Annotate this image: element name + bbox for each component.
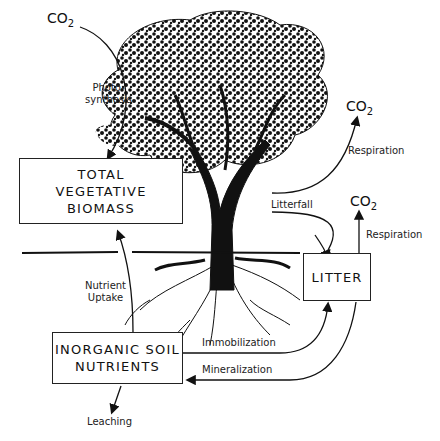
box-line: BIOMASS xyxy=(67,200,135,217)
photosynthesis-label: Photo- synthesis xyxy=(85,82,132,106)
inorganic-soil-nutrients-box: INORGANIC SOIL NUTRIENTS xyxy=(52,332,183,384)
mineralization-label: Mineralization xyxy=(202,364,272,376)
co2-label-litter-respiration: CO2 xyxy=(350,193,377,212)
co2-label-tree-respiration: CO2 xyxy=(346,98,373,117)
respiration-label-tree: Respiration xyxy=(348,145,404,157)
co2-label-atmosphere: CO2 xyxy=(47,10,74,29)
box-line: LITTER xyxy=(311,269,362,286)
label-line: Photo- xyxy=(85,82,132,94)
nutrient-cycle-diagram: CO2 CO2 CO2 TOTAL VEGETATIVE BIOMASS LIT… xyxy=(0,0,440,441)
leaching-arrow xyxy=(112,386,121,412)
immobilization-label: Immobilization xyxy=(202,337,276,349)
box-line: INORGANIC SOIL xyxy=(55,341,180,358)
litterfall-label: Litterfall xyxy=(271,199,313,211)
respiration-label-litter: Respiration xyxy=(366,229,422,241)
box-line: NUTRIENTS xyxy=(75,358,160,375)
box-line: VEGETATIVE xyxy=(55,183,146,200)
label-line: synthesis xyxy=(85,94,132,106)
leaching-label: Leaching xyxy=(87,416,132,428)
nutrient-uptake-label: Nutrient Uptake xyxy=(85,280,126,304)
total-vegetative-biomass-box: TOTAL VEGETATIVE BIOMASS xyxy=(19,158,183,224)
box-line: TOTAL xyxy=(77,166,124,183)
ground-line xyxy=(22,252,300,253)
label-line: Nutrient xyxy=(85,280,126,292)
label-line: Uptake xyxy=(85,292,126,304)
litter-box: LITTER xyxy=(303,253,371,301)
